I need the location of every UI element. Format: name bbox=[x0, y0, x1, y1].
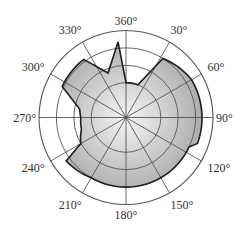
angle-label: 120° bbox=[208, 161, 231, 175]
data-area bbox=[62, 42, 202, 187]
angle-label: 90° bbox=[216, 111, 233, 125]
angle-label: 210° bbox=[59, 198, 82, 212]
angle-label: 360° bbox=[115, 14, 138, 28]
angle-label: 150° bbox=[171, 198, 194, 212]
angle-label: 240° bbox=[22, 161, 45, 175]
angle-label: 330° bbox=[59, 23, 82, 37]
angle-label: 270° bbox=[13, 111, 36, 125]
data-fill bbox=[62, 42, 202, 187]
angle-label: 60° bbox=[208, 60, 225, 74]
angle-label: 300° bbox=[22, 60, 45, 74]
angle-label: 30° bbox=[171, 23, 188, 37]
polar-chart: 360°30°60°90°120°150°180°210°240°270°300… bbox=[0, 0, 245, 234]
angle-label: 180° bbox=[115, 208, 138, 222]
polar-grid bbox=[39, 31, 213, 205]
